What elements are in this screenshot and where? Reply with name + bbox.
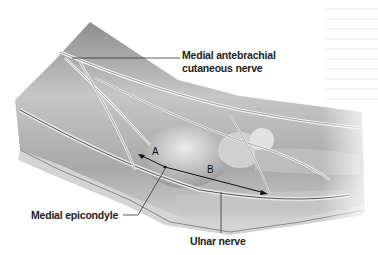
label-medial-antebrachial: Medial antebrachial (182, 49, 276, 61)
page-bleed-text (318, 0, 378, 115)
marker-b: B (207, 164, 214, 175)
label-cutaneous-nerve: cutaneous nerve (182, 62, 262, 74)
elbow-illustration: Medial antebrachial cutaneous nerve Medi… (0, 0, 378, 255)
label-ulnar-nerve: Ulnar nerve (190, 235, 246, 247)
label-medial-epicondyle: Medial epicondyle (31, 209, 118, 221)
marker-a: A (152, 146, 159, 157)
